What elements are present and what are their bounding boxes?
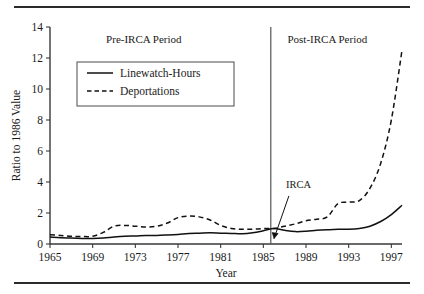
x-tick-label: 1993: [337, 251, 360, 263]
x-tick-label: 1977: [167, 251, 190, 263]
y-tick-label: 10: [32, 83, 44, 95]
y-tick-label: 12: [32, 52, 44, 64]
x-tick-label: 1965: [39, 251, 62, 263]
y-tick-label: 0: [37, 238, 43, 250]
y-tick-label: 6: [37, 145, 43, 157]
x-tick-label: 1989: [295, 251, 318, 263]
x-tick-label: 1969: [81, 251, 104, 263]
x-tick-label: 1981: [209, 251, 232, 263]
annotation-pre-irca-period: Pre-IRCA Period: [106, 33, 182, 45]
figure-container: 0246810121419651969197319771981198519891…: [0, 0, 424, 294]
figure-rule-bottom: [14, 282, 410, 284]
y-axis-title: Ratio to 1986 Value: [10, 90, 22, 181]
legend-group: Linewatch-HoursDeportations: [77, 62, 234, 106]
line-chart: 0246810121419651969197319771981198519891…: [0, 0, 424, 294]
x-tick-label: 1997: [380, 251, 403, 263]
figure-rule-top: [14, 6, 410, 8]
irca-arrow-head: [272, 232, 278, 238]
y-tick-label: 4: [37, 176, 43, 188]
x-axis-title: Year: [215, 267, 236, 279]
legend-label-deportations: Deportations: [120, 85, 180, 98]
series-line-linewatch-hours: [50, 205, 402, 238]
y-tick-label: 2: [37, 207, 43, 219]
x-tick-label: 1973: [124, 251, 147, 263]
irca-arrow-line: [274, 196, 289, 239]
axis-lines: [50, 27, 402, 244]
legend-label-linewatch-hours: Linewatch-Hours: [120, 67, 201, 79]
axes-group: 0246810121419651969197319771981198519891…: [10, 21, 403, 279]
annotation-post-irca-period: Post-IRCA Period: [287, 33, 367, 45]
y-tick-label: 14: [32, 21, 44, 33]
annotation-irca-event: IRCA: [286, 179, 312, 190]
y-tick-label: 8: [37, 114, 43, 126]
x-tick-label: 1985: [252, 251, 275, 263]
